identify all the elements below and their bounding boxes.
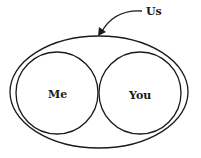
us-label: Us [146,5,162,18]
me-label: Me [48,88,67,101]
you-label: You [128,89,151,102]
us-diagram: Us Me You [0,0,201,158]
us-arrow-line [101,11,142,33]
us-arrow-head-icon [98,27,106,36]
